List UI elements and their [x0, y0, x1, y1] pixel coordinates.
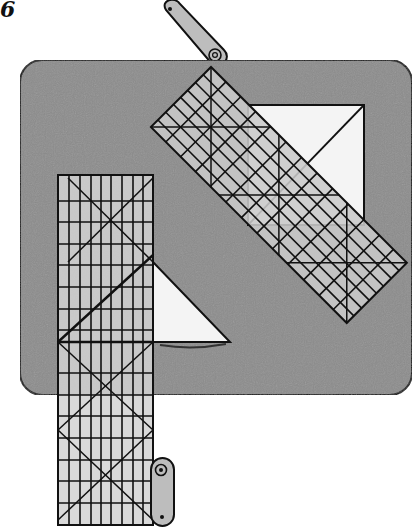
vertical-ruler — [58, 175, 153, 525]
bottom-clip — [151, 458, 174, 526]
top-clip — [165, 0, 227, 66]
illustration — [0, 0, 419, 528]
